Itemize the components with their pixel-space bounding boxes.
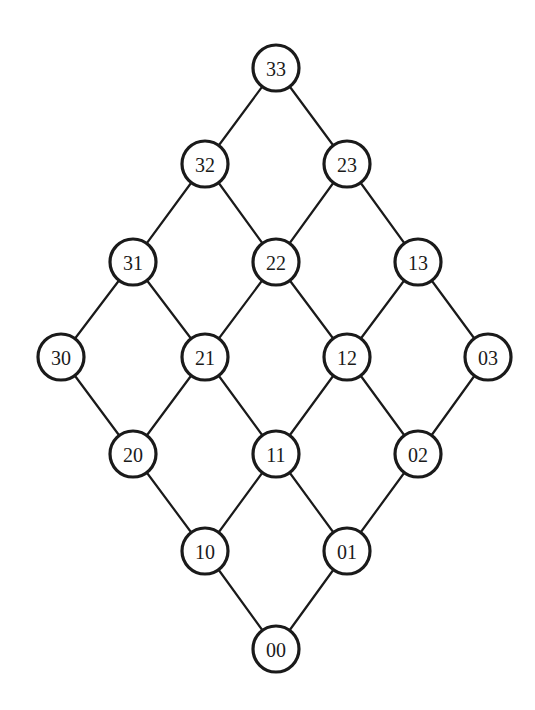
node-02: 02 (395, 431, 441, 477)
node-00: 00 (253, 626, 299, 672)
node-23: 23 (324, 141, 370, 187)
node-label: 11 (266, 444, 285, 466)
lattice-diagram: 33322331221330211203201102100100 (0, 0, 535, 710)
node-label: 00 (266, 639, 286, 661)
node-label: 33 (266, 58, 286, 80)
node-label: 02 (408, 444, 428, 466)
node-01: 01 (324, 528, 370, 574)
node-label: 10 (195, 541, 215, 563)
node-03: 03 (465, 334, 511, 380)
node-21: 21 (182, 334, 228, 380)
node-11: 11 (253, 431, 299, 477)
node-label: 21 (195, 347, 215, 369)
node-label: 30 (51, 347, 71, 369)
node-31: 31 (110, 239, 156, 285)
node-label: 31 (123, 252, 143, 274)
node-label: 20 (123, 444, 143, 466)
node-30: 30 (38, 334, 84, 380)
node-12: 12 (324, 334, 370, 380)
node-label: 13 (408, 252, 428, 274)
node-20: 20 (110, 431, 156, 477)
node-label: 23 (337, 154, 357, 176)
node-label: 32 (195, 154, 215, 176)
node-label: 03 (478, 347, 498, 369)
node-label: 22 (266, 252, 286, 274)
node-label: 01 (337, 541, 357, 563)
node-13: 13 (395, 239, 441, 285)
node-label: 12 (337, 347, 357, 369)
node-32: 32 (182, 141, 228, 187)
node-22: 22 (253, 239, 299, 285)
node-33: 33 (253, 45, 299, 91)
node-10: 10 (182, 528, 228, 574)
